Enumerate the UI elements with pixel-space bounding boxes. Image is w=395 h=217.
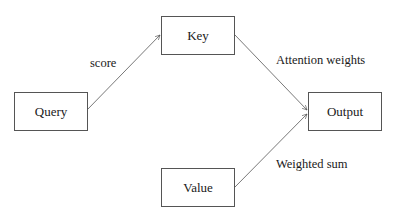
edge-label-weighted-sum: Weighted sum xyxy=(276,157,348,172)
node-query: Query xyxy=(14,92,88,131)
edge-key-output xyxy=(235,35,307,110)
node-value: Value xyxy=(161,168,235,207)
edge-label-score: score xyxy=(90,56,116,71)
node-key-label: Key xyxy=(187,28,209,44)
node-output-label: Output xyxy=(327,104,363,120)
node-value-label: Value xyxy=(183,180,213,196)
edge-label-attention-weights: Attention weights xyxy=(276,53,365,68)
node-output: Output xyxy=(308,92,382,131)
node-key: Key xyxy=(161,16,235,55)
edge-value-output xyxy=(235,114,307,187)
node-query-label: Query xyxy=(35,104,68,120)
edge-query-key xyxy=(87,35,160,110)
